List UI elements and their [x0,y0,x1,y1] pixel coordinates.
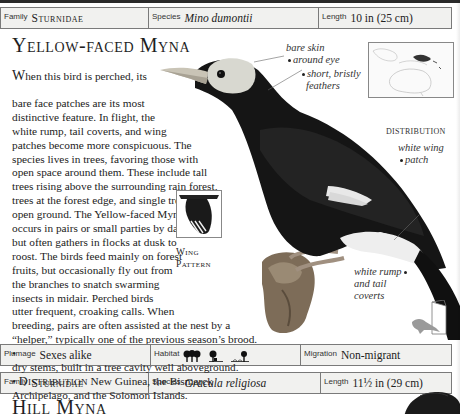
annotation-white-rump: white rump and tail coverts [354,266,409,302]
nest-bullet: • [12,347,16,361]
species-value: Mino dumontii [184,12,252,24]
plumage-label: Plumage [4,349,36,358]
annotation-text: and tail [354,278,409,290]
desc-line: open ground. The Yellow-faced Myna [12,208,184,222]
nest-text-cont: dry stems, built in a tree cavity well a… [12,361,239,373]
habitat-label: Habitat [154,349,179,358]
wing-pattern-figure [176,190,222,238]
desc-line: patches become more conspicuous. The [12,139,192,153]
desc-line: bare face patches are its most [12,97,145,111]
migration-cell: Migration Non-migrant [301,345,451,365]
plumage-value: Sexes alike [40,349,92,361]
bullet-icon: • [12,375,19,387]
hill-myna-illustration [390,378,460,414]
length-value: 10 in (25 cm) [350,12,412,24]
size-scale-book-icon [410,300,448,335]
length-label: Length [324,377,348,386]
pointer-dot-icon [400,159,403,162]
length-label: Length [322,12,346,21]
distribution-text-cont: Archipelago, and the Solomon Islands. [12,389,188,401]
desc-line: fruits, but occasionally fly out from [12,264,173,278]
migration-value: Non-migrant [341,349,400,361]
annotation-text: white wing [398,142,444,154]
length-cell: Length 10 in (25 cm) [319,8,451,28]
annotation-text: coverts [354,290,409,302]
desc-line: distinctive feature. In flight, the [12,111,155,125]
map-australasia-icon [369,43,453,97]
pointer-dot-icon [288,59,291,62]
distribution-map [368,42,454,98]
pointer-dot-icon [404,271,407,274]
species-title: Yellow-faced Myna [12,34,190,57]
drop-cap: W [12,68,25,83]
pointer-dot-icon [302,73,305,76]
distribution-heading: Distribution [19,374,88,388]
desc-line: open space around them. These include ta… [12,166,207,180]
annotation-bare-skin: bare skin around eye [286,42,340,66]
desc-line: trees at the forest edge, and single tre… [12,194,204,208]
annotation-wing-patch: white wing patch [398,142,444,166]
desc-line: but often gathers in flocks at dusk to [12,236,177,250]
desc-line: insects in midair. Perched birds [12,292,154,306]
wing-pattern-label-line: Wing [176,246,211,258]
desc-line: roost. The birds feed mainly on forest [12,250,182,264]
species-label: Species [152,12,180,21]
desc-line: species lives in trees, favoring those w… [12,153,198,167]
desc-line: occurs in pairs or small parties by day [12,222,184,236]
migration-label: Migration [304,349,337,358]
desc-line: hen this bird is perched, its [25,70,147,82]
annotation-text: white rump [354,266,402,277]
annotation-text: patch [405,154,428,165]
habitat-icons [183,348,249,362]
bullet-icon: • [12,347,16,359]
desc-line: utter frequent, croaking calls. When [12,305,174,319]
desc-line: breeding, pairs are often assisted at th… [12,319,230,333]
wing-pattern-icon [177,191,221,237]
distribution-label: DISTRIBUTION [386,127,446,136]
page-top-rule [0,0,460,3]
annotation-text: bare skin [286,42,340,54]
distribution-text: New Guinea, the Bismarck [88,375,213,387]
annotation-text: around eye [293,54,340,65]
entry1-info-bar: Family Sturnidae Species Mino dumontii L… [0,7,452,29]
distribution-bullet: • Distribution New Guinea, the Bismarck [12,375,213,389]
annotation-text: feathers [300,80,361,92]
species-description: When this bird is perched, its [12,69,342,84]
nest-text-line: dry stems, built in a tree cavity well a… [12,361,239,375]
family-label: Family [4,12,28,21]
annotation-text: short, bristly [307,68,361,79]
page-edge-shadow [456,0,460,414]
desc-line: the branches to snatch swarming [12,278,159,292]
distribution-text-line: Archipelago, and the Solomon Islands. [12,389,188,403]
species-cell: Species Mino dumontii [149,8,319,28]
wing-pattern-label: Wing Pattern [176,246,211,270]
family-value: Sturnidae [32,12,84,24]
wing-pattern-label-line: Pattern [176,258,211,270]
desc-line: white rump, tail coverts, and wing [12,125,167,139]
annotation-bristly-feathers: short, bristly feathers [300,68,361,92]
family-cell: Family Sturnidae [1,8,149,28]
